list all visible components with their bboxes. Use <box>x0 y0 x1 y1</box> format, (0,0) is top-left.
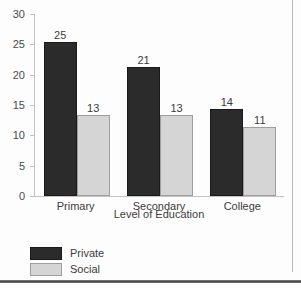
bar-social-secondary: 13 <box>160 115 193 196</box>
chart-legend: Private Social <box>30 246 104 278</box>
page-bottom-rule <box>0 280 301 283</box>
y-axis-tick-label: 15 <box>13 99 25 111</box>
y-axis-line <box>34 14 35 196</box>
bar-value-label: 13 <box>170 102 182 114</box>
y-axis-tick: 15 <box>30 105 34 106</box>
bar-value-label: 21 <box>137 54 149 66</box>
y-axis-tick-label: 10 <box>13 129 25 141</box>
legend-swatch-social-icon <box>30 263 62 276</box>
y-axis-tick: 25 <box>30 44 34 45</box>
x-axis-line <box>34 196 284 197</box>
bar-value-label: 11 <box>254 114 265 126</box>
bar-social-primary: 13 <box>77 115 110 196</box>
legend-item-social: Social <box>30 262 104 276</box>
figure-frame-right-border <box>292 0 293 272</box>
y-axis-tick: 5 <box>30 166 34 167</box>
legend-item-private: Private <box>30 246 104 260</box>
bar-private-college: 14 <box>210 109 243 196</box>
plot-area: 051015202530 251321131411 PrimarySeconda… <box>34 14 284 196</box>
bar-value-label: 13 <box>87 102 99 114</box>
y-axis-tick-label: 5 <box>19 160 25 172</box>
y-axis-tick-label: 20 <box>13 69 25 81</box>
legend-label-private: Private <box>70 247 104 259</box>
cropped-caption-remnant <box>60 0 180 4</box>
y-axis-tick: 0 <box>30 196 34 197</box>
legend-label-social: Social <box>70 263 100 275</box>
bar-private-secondary: 21 <box>127 67 160 196</box>
bar-value-label: 14 <box>221 96 233 108</box>
y-axis-tick: 20 <box>30 75 34 76</box>
y-axis-tick-label: 25 <box>13 38 25 50</box>
y-axis-tick: 30 <box>30 14 34 15</box>
bar-private-primary: 25 <box>44 42 77 196</box>
bar-value-label: 25 <box>54 29 66 41</box>
x-axis-title: Level of Education <box>34 208 284 220</box>
y-axis-tick-label: 0 <box>19 190 25 202</box>
y-axis-tick-label: 30 <box>13 8 25 20</box>
bar-social-college: 11 <box>243 127 276 196</box>
bar-chart-figure: 051015202530 251321131411 PrimarySeconda… <box>0 0 301 288</box>
y-axis-tick: 10 <box>30 135 34 136</box>
legend-swatch-private-icon <box>30 247 62 260</box>
